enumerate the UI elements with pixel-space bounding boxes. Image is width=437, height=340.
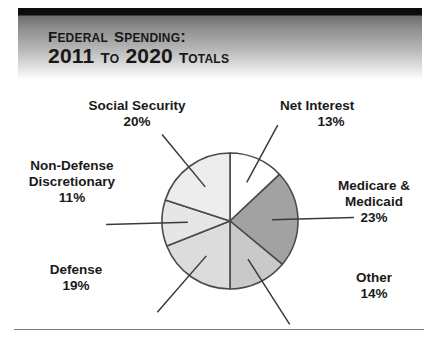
pie-label-other-name: Other: [336, 270, 412, 286]
pie-chart: Social Security 20% Net Interest 13% Non…: [0, 80, 437, 325]
page-title-line-2: 2011 TO 2020 TOTALS: [48, 45, 428, 66]
pie-label-net-interest-name: Net Interest: [280, 98, 410, 114]
pie-label-non-defense-line-1: Non-Defense: [8, 158, 136, 174]
pie-label-other: Other 14%: [336, 270, 412, 302]
page-title-line-1: FEDERAL SPENDING:: [48, 24, 428, 45]
pie-label-medicare-line-2: Medicaid: [318, 194, 430, 210]
pie-label-defense-name: Defense: [24, 262, 128, 278]
bottom-divider: [14, 329, 424, 330]
pie-label-social-security: Social Security 20%: [72, 98, 202, 130]
pie-label-non-defense-value: 11%: [8, 190, 136, 206]
pie-label-medicare-value: 23%: [318, 210, 430, 226]
page-title: FEDERAL SPENDING: 2011 TO 2020 TOTALS: [48, 24, 428, 67]
pie-label-net-interest: Net Interest 13%: [280, 98, 410, 130]
pie-label-social-security-value: 20%: [72, 114, 202, 130]
pie-slices: [162, 153, 298, 289]
pie-label-other-value: 14%: [336, 286, 412, 302]
pie-label-social-security-name: Social Security: [72, 98, 202, 114]
pie-label-medicare-medicaid: Medicare & Medicaid 23%: [318, 178, 430, 226]
pie-label-medicare-line-1: Medicare &: [318, 178, 430, 194]
pie-label-defense-value: 19%: [24, 278, 128, 294]
header-banner: FEDERAL SPENDING: 2011 TO 2020 TOTALS: [18, 8, 422, 78]
pie-label-net-interest-value: 13%: [280, 114, 382, 130]
pie-label-non-defense-line-2: Discretionary: [8, 174, 136, 190]
pie-label-non-defense-discretionary: Non-Defense Discretionary 11%: [8, 158, 136, 206]
pie-label-defense: Defense 19%: [24, 262, 128, 294]
